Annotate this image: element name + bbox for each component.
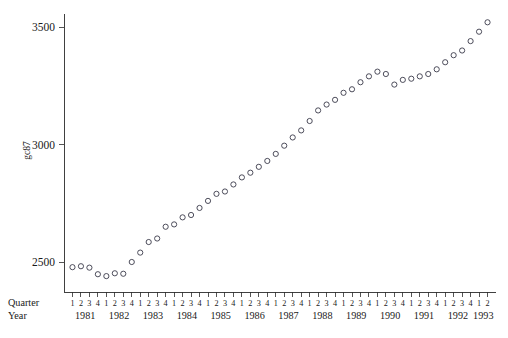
x-tick-label-quarter: 2 [384, 299, 388, 308]
x-tick-label-quarter: 3 [358, 299, 362, 308]
x-tick-label-quarter: 3 [155, 299, 159, 308]
x-axis: 1234123412341234123412341234123412341234… [64, 292, 496, 321]
x-tick-label-year: 1993 [473, 310, 493, 321]
data-point [409, 76, 414, 81]
data-point [299, 128, 304, 133]
x-tick-label-quarter: 2 [147, 299, 151, 308]
x-tick-label-quarter: 3 [189, 299, 193, 308]
data-point [443, 60, 448, 65]
x-tick-label-quarter: 2 [316, 299, 320, 308]
x-tick-label-year: 1983 [143, 310, 163, 321]
data-point [265, 158, 270, 163]
x-tick-label-quarter: 3 [291, 299, 295, 308]
data-point [383, 71, 388, 76]
x-tick-label-quarter: 1 [477, 299, 481, 308]
x-tick-label-quarter: 2 [248, 299, 252, 308]
data-point [222, 189, 227, 194]
data-point [180, 215, 185, 220]
data-point [358, 80, 363, 85]
x-tick-label-quarter: 4 [231, 299, 235, 308]
data-point [426, 71, 431, 76]
x-tick-label-quarter: 1 [240, 299, 244, 308]
data-point [163, 224, 168, 229]
x-tick-label-year: 1991 [414, 310, 434, 321]
data-point [78, 264, 83, 269]
x-tick-label-quarter: 3 [426, 299, 430, 308]
data-point [205, 198, 210, 203]
data-point [460, 48, 465, 53]
x-tick-label-quarter: 2 [282, 299, 286, 308]
data-point [290, 135, 295, 140]
x-tick-label-quarter: 4 [96, 299, 100, 308]
x-tick-label-year: 1982 [109, 310, 129, 321]
x-tick-label-quarter: 2 [485, 299, 489, 308]
data-point [468, 39, 473, 44]
data-point [451, 53, 456, 58]
y-tick-label: 3000 [32, 139, 55, 151]
x-tick-label-year: 1989 [346, 310, 366, 321]
x-tick-label-year: 1984 [177, 310, 197, 321]
data-point [112, 271, 117, 276]
x-tick-label-quarter: 1 [172, 299, 176, 308]
x-tick-label-quarter: 2 [418, 299, 422, 308]
data-point [417, 74, 422, 79]
data-point [400, 77, 405, 82]
x-tick-label-quarter: 1 [104, 299, 108, 308]
data-point [129, 259, 134, 264]
x-tick-label-quarter: 3 [460, 299, 464, 308]
x-tick-label-year: 1988 [312, 310, 332, 321]
data-point [324, 102, 329, 107]
data-point [172, 222, 177, 227]
x-tick-label-quarter: 4 [401, 299, 405, 308]
x-tick-label-quarter: 4 [197, 299, 201, 308]
data-point [121, 271, 126, 276]
x-tick-label-quarter: 1 [375, 299, 379, 308]
data-point [214, 191, 219, 196]
data-point [87, 265, 92, 270]
data-point [104, 274, 109, 279]
x-tick-label-quarter: 3 [325, 299, 329, 308]
x-tick-label-quarter: 1 [274, 299, 278, 308]
data-point [349, 87, 354, 92]
year-row-label: Year [8, 310, 27, 321]
data-point [138, 250, 143, 255]
data-point [155, 236, 160, 241]
chart-figure: 250030003500gc87 12341234123412341234123… [0, 0, 508, 338]
y-tick-label: 2500 [32, 256, 55, 268]
data-point [95, 272, 100, 277]
data-point [188, 212, 193, 217]
x-tick-label-year: 1987 [278, 310, 298, 321]
data-point [273, 151, 278, 156]
x-tick-label-quarter: 1 [206, 299, 210, 308]
x-tick-label-quarter: 1 [443, 299, 447, 308]
x-tick-label-quarter: 1 [341, 299, 345, 308]
x-tick-label-quarter: 3 [87, 299, 91, 308]
x-tick-label-quarter: 1 [308, 299, 312, 308]
x-tick-label-quarter: 4 [367, 299, 371, 308]
y-axis-title: gc87 [21, 141, 32, 160]
data-point [316, 108, 321, 113]
y-axis: 250030003500gc87 [21, 14, 64, 292]
data-point [366, 74, 371, 79]
data-point [256, 164, 261, 169]
data-point [476, 29, 481, 34]
x-tick-label-quarter: 2 [214, 299, 218, 308]
data-point [341, 90, 346, 95]
data-point [231, 182, 236, 187]
x-tick-label-quarter: 2 [113, 299, 117, 308]
x-tick-label-quarter: 3 [392, 299, 396, 308]
data-point [307, 118, 312, 123]
x-tick-label-quarter: 3 [121, 299, 125, 308]
data-point [197, 205, 202, 210]
x-tick-label-quarter: 2 [350, 299, 354, 308]
scatter-plot: 250030003500gc87 12341234123412341234123… [0, 0, 508, 338]
x-tick-label-year: 1986 [244, 310, 264, 321]
axis-labels: QuarterYear [8, 297, 40, 321]
x-tick-label-quarter: 4 [435, 299, 439, 308]
x-tick-label-quarter: 2 [79, 299, 83, 308]
x-tick-label-quarter: 1 [138, 299, 142, 308]
data-point [485, 20, 490, 25]
x-tick-label-quarter: 4 [299, 299, 303, 308]
data-points [70, 20, 490, 279]
x-tick-label-quarter: 1 [70, 299, 74, 308]
